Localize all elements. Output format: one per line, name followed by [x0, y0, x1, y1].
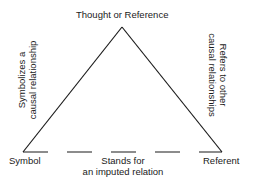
- node-referent: Referent: [203, 155, 239, 166]
- edge-right-label: Refers to other causal relationships: [207, 27, 229, 123]
- node-symbol: Symbol: [9, 155, 41, 166]
- edge-left-label: Symbolizes a causal relationship: [16, 35, 38, 125]
- edge-bottom-label-line1: Stands for: [98, 155, 148, 166]
- node-thought-reference: Thought or Reference: [76, 9, 168, 20]
- edge-left-label-line2: causal relationship: [27, 35, 38, 125]
- edge-right-label-line2: causal relationships: [207, 27, 218, 123]
- edge-left-label-line1: Symbolizes a: [16, 35, 27, 125]
- edge-bottom-label-line2: an imputed relation: [80, 166, 166, 177]
- edge-right-label-line1: Refers to other: [218, 27, 229, 123]
